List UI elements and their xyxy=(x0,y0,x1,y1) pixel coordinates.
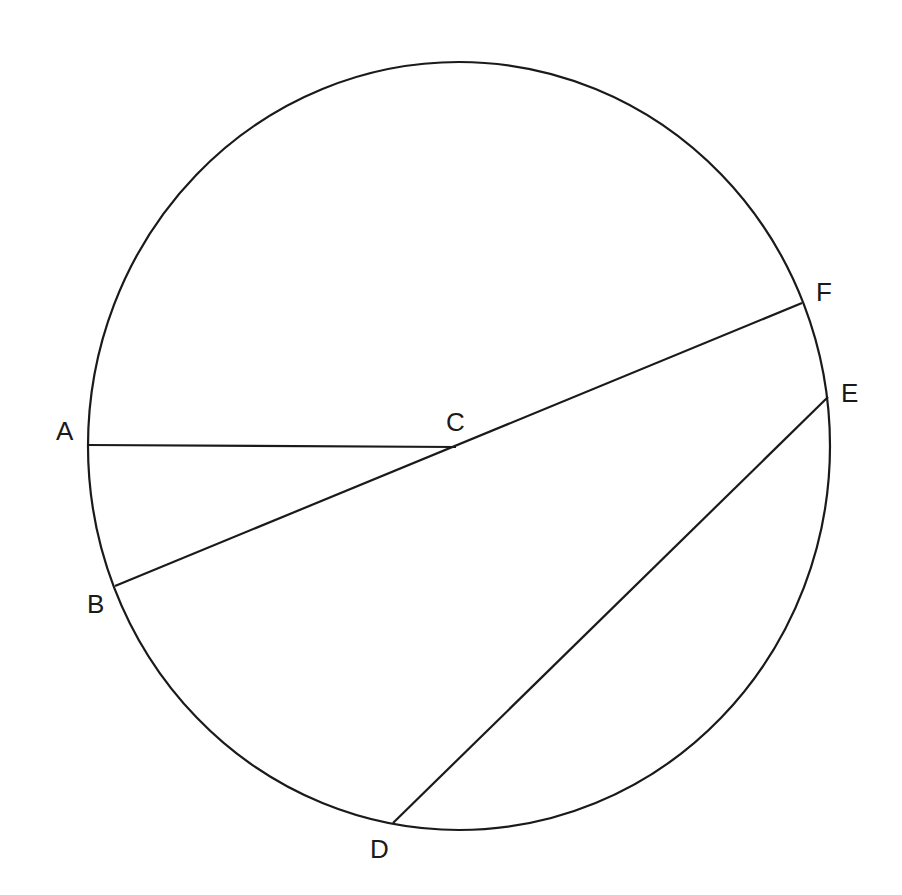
label-e: E xyxy=(841,378,858,408)
diagram-canvas: A B C D E F xyxy=(0,0,902,895)
segment-bf xyxy=(115,303,802,586)
label-f: F xyxy=(816,277,832,307)
label-b: B xyxy=(87,589,104,619)
segment-de xyxy=(393,397,828,823)
segment-ac xyxy=(88,445,456,447)
label-d: D xyxy=(370,834,389,864)
label-a: A xyxy=(56,416,74,446)
label-c: C xyxy=(446,407,465,437)
